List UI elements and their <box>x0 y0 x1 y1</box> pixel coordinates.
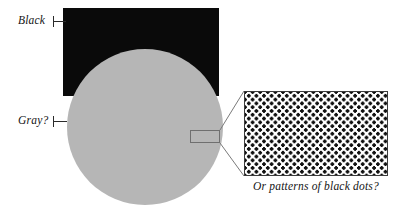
upper-connector-line <box>220 91 244 130</box>
gray-circle <box>67 49 223 205</box>
label-gray: Gray? <box>18 114 48 126</box>
label-black: Black <box>18 14 45 26</box>
leader-line-gray <box>53 121 67 122</box>
lower-connector-line <box>220 143 244 176</box>
magnifier-caption: Or patterns of black dots? <box>244 180 388 192</box>
callout-selection-box <box>190 130 220 143</box>
magnified-dot-pattern-panel <box>244 91 388 176</box>
leader-tick-gray <box>53 116 54 127</box>
illustration-figure: Black Gray? Or patterns of black dots? <box>0 0 406 222</box>
leader-line-black <box>53 21 66 22</box>
leader-tick-black <box>53 16 54 27</box>
